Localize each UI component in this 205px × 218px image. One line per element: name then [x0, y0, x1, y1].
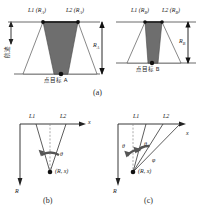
label-beam-l1-a: L1 (RA): [28, 7, 46, 15]
panel-b-label-l1: L1: [29, 113, 35, 119]
label-beam-l2-a: L2 (RA): [66, 7, 84, 15]
panel-c-label-point: (R, x): [138, 168, 151, 174]
caption-b: (b): [43, 196, 52, 205]
panel-b-label-point: (R, x): [55, 168, 68, 174]
panel-c-label-phi: φ: [152, 157, 155, 163]
label-target-a: 点目标 A: [44, 76, 68, 84]
panel-b-target-point: [48, 170, 53, 175]
panel-b-label-x: x: [88, 119, 91, 125]
panel-c-diagram: [116, 122, 186, 186]
panel-b-label-r: R: [15, 188, 19, 194]
range-dim-head-bottom-a: [99, 68, 104, 75]
label-range-b: RB: [179, 38, 185, 46]
panel-c-label-l1: L1: [133, 113, 139, 119]
label-flight-track: 航迹: [3, 46, 11, 58]
label-beam-l2-b: L2 (RB): [162, 7, 180, 15]
panel-c-r-arrow: [116, 178, 121, 186]
range-dim-head-top-a: [99, 21, 104, 28]
track-arrow-head-down-a: [9, 39, 14, 45]
panel-c-label-r: R: [113, 188, 117, 194]
panel-a-left-scene: [8, 20, 105, 76]
label-beam-l1-b: L1 (RB): [131, 7, 149, 15]
panel-b-ray-l2: [50, 124, 66, 172]
panel-c-label-x: x: [186, 130, 189, 136]
panel-c-label-theta-2: θ: [144, 141, 147, 147]
figure-canvas: [0, 0, 205, 218]
panel-b-label-theta: θ: [60, 151, 63, 157]
caption-c: (c): [144, 196, 153, 205]
panel-b-r-arrow: [18, 178, 23, 186]
panel-b-diagram: [18, 122, 86, 186]
caption-a: (a): [93, 88, 102, 97]
panel-b-label-l2: L2: [60, 113, 66, 119]
panel-c-target-point: [131, 170, 136, 175]
panel-c-label-theta-1: θ: [122, 143, 125, 149]
panel-b-x-arrow: [79, 122, 86, 127]
panel-c-x-arrow: [179, 122, 186, 127]
label-range-a: RA: [93, 42, 99, 50]
panel-c-label-l2: L2: [163, 113, 169, 119]
panel-b-ray-l1: [36, 124, 50, 172]
label-target-b: 点目标 B: [136, 65, 160, 73]
